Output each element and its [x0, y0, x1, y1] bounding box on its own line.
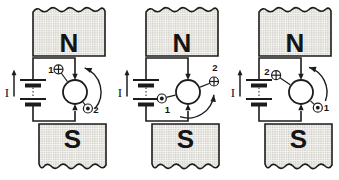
current-label: I [231, 85, 235, 100]
north-pole-label: N [286, 28, 305, 58]
current-out-of-page-icon [157, 94, 175, 103]
current-arrow-icon [125, 70, 130, 97]
panel-3: N S I [226, 0, 339, 180]
south-pole-label: S [64, 124, 81, 154]
conductor-2-label: 2 [212, 62, 217, 73]
conductor-1-label: 1 [165, 104, 171, 115]
wire-arrow-up-icon [72, 104, 77, 110]
battery [246, 80, 272, 105]
current-out-of-page-icon [311, 101, 323, 112]
south-pole-label: S [290, 124, 307, 154]
current-label: I [5, 85, 9, 100]
wire-arrow-down-icon [298, 74, 303, 80]
north-pole-label: N [60, 28, 79, 58]
wire-arrow-up-icon [185, 104, 190, 110]
current-arrow-icon [12, 70, 17, 97]
conductor-1-label: 1 [48, 64, 54, 75]
conductor-1-label: 1 [324, 102, 330, 113]
south-pole-label: S [177, 124, 194, 154]
battery [20, 80, 46, 105]
wire-arrow-down-icon [72, 74, 77, 80]
rotor [176, 80, 200, 104]
north-pole-label: N [173, 28, 192, 58]
current-into-page-icon [272, 71, 291, 85]
current-into-page-icon [54, 65, 67, 82]
current-out-of-page-icon [83, 102, 92, 113]
dc-motor-commutation-diagram: N S I [0, 0, 339, 180]
rotor [63, 80, 87, 104]
panel-2: N S I [113, 0, 226, 180]
rotor [289, 80, 313, 104]
wire-arrow-up-icon [298, 104, 303, 110]
conductor-2-label: 2 [264, 66, 269, 77]
panel-1: N S I [0, 0, 113, 180]
current-into-page-icon [200, 77, 218, 87]
battery [133, 80, 159, 105]
current-arrow-icon [238, 70, 243, 97]
wire-arrow-down-icon [185, 74, 190, 80]
current-label: I [118, 85, 122, 100]
